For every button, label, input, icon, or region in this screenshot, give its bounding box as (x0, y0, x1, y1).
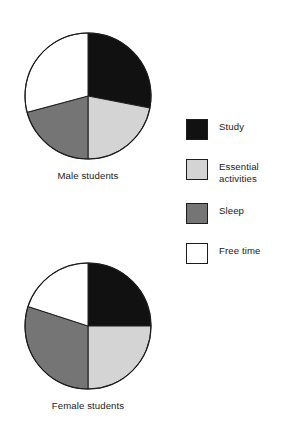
male-pie-svg (20, 28, 156, 164)
legend-label-free-time: Free time (219, 242, 260, 257)
pie-chart-figure: Male students Female students Study Esse… (0, 0, 282, 422)
legend-swatch-study-icon (186, 119, 208, 140)
legend-item-study: Study (186, 118, 282, 140)
male-students-chart: Male students (20, 28, 156, 182)
legend-label-sleep: Sleep (219, 202, 244, 217)
legend-swatch-free-time-icon (186, 243, 208, 264)
legend-swatch-sleep-icon (186, 203, 208, 224)
female-chart-caption: Female students (20, 400, 156, 412)
pie-slice-essential-activities (88, 326, 151, 389)
legend-item-free-time: Free time (186, 242, 282, 264)
legend-item-essential-activities: Essential activities (186, 158, 282, 184)
chart-legend: Study Essential activities Sleep Free ti… (186, 118, 282, 264)
female-students-chart: Female students (20, 258, 156, 412)
legend-swatch-essential-icon (186, 159, 208, 180)
pie-slice-study (88, 263, 151, 326)
pie-slice-study (88, 33, 151, 108)
legend-label-study: Study (219, 118, 244, 133)
legend-label-essential-activities: Essential activities (219, 158, 259, 184)
female-pie-svg (20, 258, 156, 394)
male-chart-caption: Male students (20, 170, 156, 182)
legend-item-sleep: Sleep (186, 202, 282, 224)
